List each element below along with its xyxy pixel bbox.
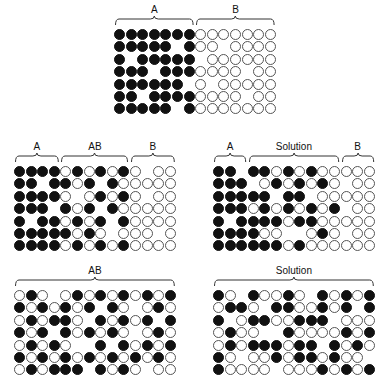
- open-circle-icon: [283, 352, 294, 363]
- empty-cell: [49, 327, 60, 338]
- filled-circle-icon: [95, 315, 106, 326]
- empty-cell: [130, 327, 141, 338]
- open-circle-icon: [130, 240, 141, 251]
- open-circle-icon: [142, 302, 153, 313]
- filled-circle-icon: [137, 41, 148, 52]
- open-circle-icon: [118, 302, 129, 313]
- open-circle-icon: [352, 203, 363, 214]
- open-circle-icon: [306, 228, 317, 239]
- filled-circle-icon: [294, 315, 305, 326]
- open-circle-icon: [283, 364, 294, 375]
- filled-circle-icon: [236, 203, 247, 214]
- open-circle-icon: [130, 290, 141, 301]
- filled-circle-icon: [213, 240, 224, 251]
- filled-circle-icon: [172, 79, 183, 90]
- open-circle-icon: [230, 79, 241, 90]
- open-circle-icon: [130, 364, 141, 375]
- open-circle-icon: [248, 364, 259, 375]
- filled-circle-icon: [49, 216, 60, 227]
- empty-cell: [84, 340, 95, 351]
- open-circle-icon: [283, 340, 294, 351]
- filled-circle-icon: [142, 315, 153, 326]
- filled-circle-icon: [236, 178, 247, 189]
- open-circle-icon: [253, 41, 264, 52]
- open-circle-icon: [306, 364, 317, 375]
- empty-cell: [271, 364, 282, 375]
- filled-circle-icon: [213, 191, 224, 202]
- brace-b: B: [196, 6, 275, 26]
- filled-circle-icon: [26, 340, 37, 351]
- open-circle-icon: [118, 178, 129, 189]
- brace-solution: Solution: [214, 267, 374, 287]
- filled-circle-icon: [259, 315, 270, 326]
- open-circle-icon: [230, 54, 241, 65]
- open-circle-icon: [218, 91, 229, 102]
- open-circle-icon: [271, 228, 282, 239]
- open-circle-icon: [352, 191, 363, 202]
- open-circle-icon: [130, 203, 141, 214]
- open-circle-icon: [165, 364, 176, 375]
- open-circle-icon: [165, 240, 176, 251]
- filled-circle-icon: [259, 240, 270, 251]
- filled-circle-icon: [236, 216, 247, 227]
- filled-circle-icon: [49, 228, 60, 239]
- empty-cell: [271, 191, 282, 202]
- filled-circle-icon: [49, 166, 60, 177]
- open-circle-icon: [84, 216, 95, 227]
- open-circle-icon: [207, 41, 218, 52]
- open-circle-icon: [118, 203, 129, 214]
- filled-circle-icon: [225, 228, 236, 239]
- filled-circle-icon: [107, 178, 118, 189]
- open-circle-icon: [60, 240, 71, 251]
- filled-circle-icon: [14, 166, 25, 177]
- filled-circle-icon: [248, 340, 259, 351]
- brace-label: B: [196, 5, 275, 15]
- open-circle-icon: [329, 240, 340, 251]
- filled-circle-icon: [364, 302, 375, 313]
- filled-circle-icon: [72, 166, 83, 177]
- open-circle-icon: [265, 66, 276, 77]
- filled-circle-icon: [118, 216, 129, 227]
- filled-circle-icon: [271, 178, 282, 189]
- open-circle-icon: [153, 290, 164, 301]
- filled-circle-icon: [84, 178, 95, 189]
- filled-circle-icon: [225, 340, 236, 351]
- filled-circle-icon: [172, 91, 183, 102]
- empty-cell: [341, 228, 352, 239]
- open-circle-icon: [329, 166, 340, 177]
- empty-cell: [49, 203, 60, 214]
- empty-cell: [364, 352, 375, 363]
- filled-circle-icon: [130, 352, 141, 363]
- filled-circle-icon: [107, 203, 118, 214]
- filled-circle-icon: [248, 191, 259, 202]
- empty-cell: [107, 228, 118, 239]
- filled-circle-icon: [114, 103, 125, 114]
- open-circle-icon: [230, 29, 241, 40]
- open-circle-icon: [341, 340, 352, 351]
- open-circle-icon: [118, 327, 129, 338]
- open-circle-icon: [107, 166, 118, 177]
- filled-circle-icon: [26, 364, 37, 375]
- filled-circle-icon: [49, 191, 60, 202]
- open-circle-icon: [14, 340, 25, 351]
- empty-cell: [153, 228, 164, 239]
- open-circle-icon: [195, 79, 206, 90]
- empty-cell: [306, 290, 317, 301]
- filled-circle-icon: [95, 240, 106, 251]
- filled-circle-icon: [14, 216, 25, 227]
- open-circle-icon: [230, 66, 241, 77]
- brace-label: Solution: [214, 266, 374, 276]
- empty-cell: [329, 315, 340, 326]
- filled-circle-icon: [248, 315, 259, 326]
- open-circle-icon: [364, 340, 375, 351]
- open-circle-icon: [352, 240, 363, 251]
- open-circle-icon: [248, 327, 259, 338]
- filled-circle-icon: [137, 66, 148, 77]
- open-circle-icon: [153, 203, 164, 214]
- open-circle-icon: [165, 216, 176, 227]
- filled-circle-icon: [114, 79, 125, 90]
- open-circle-icon: [207, 66, 218, 77]
- open-circle-icon: [253, 103, 264, 114]
- open-circle-icon: [84, 191, 95, 202]
- filled-circle-icon: [14, 203, 25, 214]
